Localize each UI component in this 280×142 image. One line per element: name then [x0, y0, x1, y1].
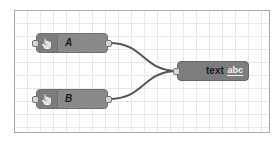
- node-text[interactable]: text abc: [177, 61, 249, 81]
- node-b[interactable]: B: [36, 89, 108, 109]
- node-text-input-port[interactable]: [173, 68, 180, 75]
- node-a[interactable]: A: [36, 33, 108, 53]
- node-b-input-port[interactable]: [32, 96, 39, 103]
- node-a-output-port[interactable]: [105, 40, 112, 47]
- node-a-label: A: [65, 37, 72, 48]
- node-b-output-port[interactable]: [105, 96, 112, 103]
- node-b-label: B: [65, 93, 72, 104]
- abc-text-icon: abc: [227, 65, 243, 76]
- wire-b-to-text[interactable]: [109, 71, 178, 99]
- node-text-label: text: [206, 65, 224, 76]
- wire-a-to-text[interactable]: [109, 43, 178, 71]
- node-a-icon-area: [37, 34, 58, 52]
- hand-pointer-icon: [41, 37, 53, 50]
- hand-pointer-icon: [41, 93, 53, 106]
- node-a-input-port[interactable]: [32, 40, 39, 47]
- node-b-icon-area: [37, 90, 58, 108]
